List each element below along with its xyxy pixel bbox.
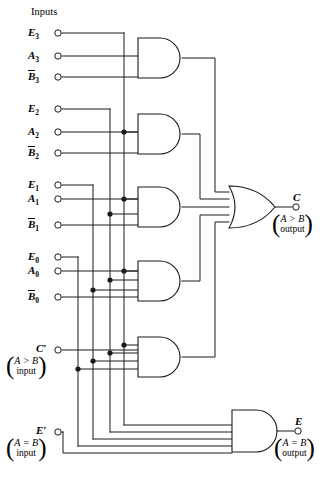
label-C-output: C (293, 192, 300, 203)
terminal-E2 (55, 106, 61, 112)
note-C-output: ( A > B output ) (272, 213, 313, 235)
terminal-circles (55, 30, 301, 435)
terminal-A3 (55, 53, 61, 59)
label-E3: E3 (28, 27, 39, 41)
label-E2: E2 (28, 103, 39, 117)
note-Cprime: ( A > B input ) (6, 355, 46, 377)
or-gate-greater (229, 186, 275, 228)
and-gate-bit2 (138, 114, 180, 154)
label-E0: E0 (28, 251, 39, 265)
paren-right: ) (38, 357, 46, 376)
terminal-E3 (55, 30, 61, 36)
label-A0: A0 (28, 265, 39, 279)
label-B3-bar: B3 (28, 70, 39, 85)
terminal-C-output (293, 204, 299, 210)
label-A3: A3 (28, 50, 39, 64)
label-B2-bar: B2 (28, 146, 39, 161)
note-Eprime: ( A = B input ) (6, 437, 46, 459)
note-C-line1: A > B (281, 213, 305, 224)
terminal-E-output (295, 428, 301, 434)
and-gate-bit1 (138, 187, 180, 227)
circuit-svg (0, 0, 324, 477)
label-A1: A1 (28, 193, 39, 207)
wire-and0-to-or (182, 215, 229, 281)
note-E-output: ( A = B output ) (274, 437, 315, 459)
note-C-line2: output (280, 224, 304, 235)
and-gate-equal (232, 410, 277, 452)
terminal-Cprime (55, 347, 61, 353)
paren-right: ) (305, 215, 313, 234)
note-Cprime-line1: A > B (14, 355, 38, 366)
label-B0-bar: B0 (28, 290, 39, 305)
terminal-E0 (55, 254, 61, 260)
inputs-header: Inputs (31, 7, 57, 18)
bus-Eprime-route (63, 432, 232, 453)
label-E-output: E (295, 416, 302, 427)
equal-gate-feeds (78, 425, 232, 446)
note-Cprime-line2: input (16, 366, 36, 377)
wire-andc-to-or (182, 222, 229, 357)
paren-left: ( (274, 439, 282, 458)
terminal-B3bar (55, 74, 61, 80)
terminal-A2 (55, 129, 61, 135)
junction-dots (75, 129, 126, 371)
and-gate-bit3 (138, 38, 180, 78)
circuit-diagram: Inputs E3 A3 B3 E2 A2 B2 E1 A1 B1 E0 A0 … (0, 0, 324, 477)
bus-taps (78, 132, 138, 369)
and-gate-cascade (138, 337, 180, 377)
paren-right: ) (38, 439, 46, 458)
note-Eprime-line1: A = B (14, 437, 38, 448)
note-E-line1: A = B (283, 437, 307, 448)
and-to-or-wires (182, 58, 229, 357)
input-leads (62, 33, 232, 453)
terminal-E1 (55, 182, 61, 188)
terminal-B1bar (55, 222, 61, 228)
wire-and2-to-or (182, 134, 229, 199)
terminal-B2bar (55, 150, 61, 156)
label-A2: A2 (28, 126, 39, 140)
terminal-A0 (55, 268, 61, 274)
terminal-A1 (55, 196, 61, 202)
and-gate-bit0 (138, 261, 180, 301)
output-leads (275, 207, 294, 431)
label-E1: E1 (28, 179, 39, 193)
terminal-Eprime (55, 429, 61, 435)
paren-right: ) (307, 439, 315, 458)
note-E-line2: output (282, 448, 306, 459)
label-B1-bar: B1 (28, 218, 39, 233)
note-Eprime-line2: input (16, 448, 36, 459)
paren-left: ( (272, 215, 280, 234)
wire-and3-to-or (182, 58, 229, 192)
terminal-B0bar (55, 294, 61, 300)
